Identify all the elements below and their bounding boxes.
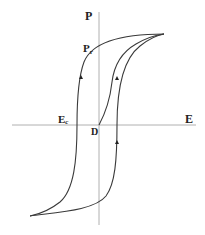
hysteresis-diagram: P E Pr Ec D xyxy=(0,0,205,235)
axis-label-p: P xyxy=(85,9,92,23)
arrow-up-initial-curve xyxy=(115,76,119,80)
label-remanent-polarization: Pr xyxy=(83,42,93,56)
axis-label-e: E xyxy=(185,112,193,126)
label-origin-d: D xyxy=(91,126,98,137)
arrow-up-right-branch xyxy=(115,140,119,144)
arrow-down-left-branch xyxy=(79,75,83,79)
label-coercive-field: Ec xyxy=(58,113,68,126)
initial-polarization-curve xyxy=(99,34,164,125)
